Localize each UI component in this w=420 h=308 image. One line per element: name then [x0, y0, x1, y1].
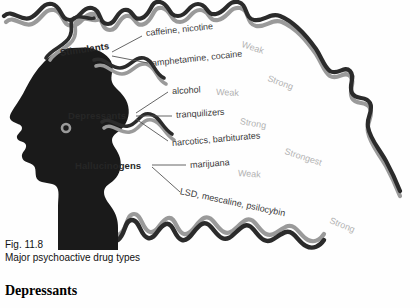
leader-line-stimulants-1	[112, 36, 142, 52]
figure-illustration	[0, 0, 420, 260]
figure-caption-title: Major psychoactive drug types	[5, 251, 140, 264]
leader-line-depressants-1	[136, 92, 168, 113]
head-silhouette	[10, 48, 129, 250]
leader-line-hallucinogens-2	[152, 167, 180, 192]
figure-caption: Fig. 11.8 Major psychoactive drug types	[5, 238, 140, 264]
section-heading-depressants: Depressants	[5, 283, 77, 299]
figure-caption-number: Fig. 11.8	[5, 238, 140, 251]
